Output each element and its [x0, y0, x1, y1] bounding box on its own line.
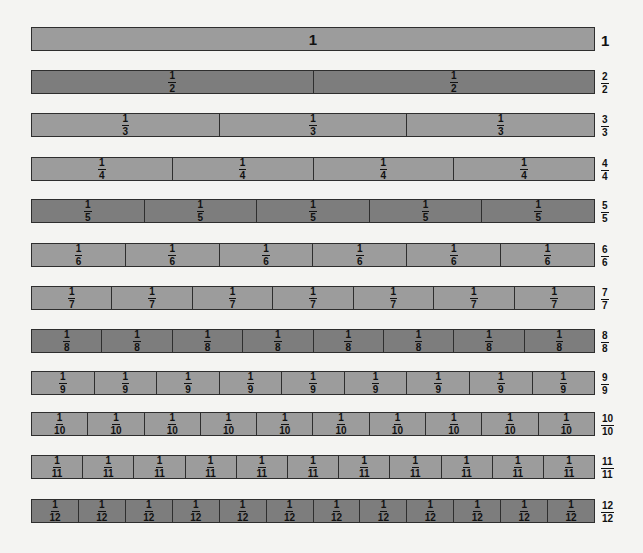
- numerator: 1: [497, 114, 505, 126]
- denominator: 6: [169, 256, 175, 267]
- denominator: 8: [602, 343, 608, 354]
- denominator: 8: [416, 342, 422, 353]
- fraction: 15: [422, 200, 430, 223]
- numerator: 1: [262, 244, 270, 256]
- numerator: 1: [344, 330, 352, 342]
- numerator: 1: [380, 500, 388, 512]
- denominator: 12: [519, 512, 530, 523]
- fraction: 110: [504, 413, 515, 436]
- numerator: 1: [63, 330, 71, 342]
- numerator: 1: [53, 456, 61, 468]
- fraction: 17: [148, 287, 156, 310]
- numerator: 1: [51, 500, 59, 512]
- denominator: 7: [230, 299, 236, 310]
- numerator: 1: [356, 244, 364, 256]
- total-label: 44: [601, 157, 609, 183]
- fraction: 99: [601, 373, 609, 396]
- denominator: 11: [359, 468, 370, 479]
- whole-number: 1: [309, 31, 317, 48]
- denominator: 10: [504, 425, 515, 436]
- fraction: 14: [98, 158, 106, 181]
- numerator: 1: [229, 287, 237, 299]
- numerator: 1: [565, 456, 573, 468]
- numerator: 1: [497, 372, 505, 384]
- fraction-cell: 16: [407, 244, 501, 266]
- numerator: 1: [534, 200, 542, 212]
- fraction-cell: 1: [32, 28, 594, 50]
- denominator: 8: [134, 342, 140, 353]
- fraction-cell: 17: [273, 287, 353, 309]
- numerator: 1: [281, 413, 289, 425]
- fraction: 15: [197, 200, 205, 223]
- fraction-cell: 18: [314, 330, 384, 352]
- numerator: 1: [427, 500, 435, 512]
- denominator: 6: [357, 256, 363, 267]
- fraction-cell: 15: [482, 200, 594, 222]
- numerator: 1: [514, 456, 522, 468]
- fraction: 112: [190, 500, 201, 523]
- fraction-cell: 12: [314, 71, 595, 93]
- fraction-cell: 18: [243, 330, 313, 352]
- numerator: 1: [473, 500, 481, 512]
- numerator: 1: [104, 456, 112, 468]
- fraction-cell: 18: [525, 330, 594, 352]
- fraction: 1111: [601, 457, 614, 480]
- denominator: 3: [498, 126, 504, 137]
- fraction-cell: 19: [282, 372, 345, 394]
- denominator: 2: [169, 83, 175, 94]
- numerator: 10: [601, 414, 614, 426]
- fraction: 19: [184, 372, 192, 395]
- fraction-cell: 16: [501, 244, 594, 266]
- strip-row-1: 11: [0, 27, 643, 53]
- fraction-cell: 14: [314, 158, 455, 180]
- numerator: 1: [192, 500, 200, 512]
- denominator: 11: [103, 468, 114, 479]
- denominator: 6: [602, 257, 608, 268]
- strip-row-3: 13131333: [0, 113, 643, 139]
- denominator: 7: [471, 299, 477, 310]
- fraction-cell: 16: [313, 244, 407, 266]
- numerator: 1: [394, 413, 402, 425]
- fraction: 19: [560, 372, 568, 395]
- numerator: 1: [506, 413, 514, 425]
- fraction: 15: [84, 200, 92, 223]
- numerator: 7: [601, 288, 609, 300]
- numerator: 1: [415, 330, 423, 342]
- denominator: 10: [110, 425, 121, 436]
- fraction-cell: 112: [79, 500, 126, 522]
- fraction-cell: 110: [539, 413, 594, 435]
- numerator: 1: [422, 200, 430, 212]
- fraction: 112: [49, 500, 60, 523]
- numerator: 1: [390, 287, 398, 299]
- fraction-bar: 17171717171717: [31, 286, 595, 310]
- fraction-cell: 111: [339, 456, 390, 478]
- denominator: 8: [345, 342, 351, 353]
- numerator: 4: [601, 159, 609, 171]
- fraction: 111: [257, 456, 268, 479]
- denominator: 7: [551, 299, 557, 310]
- strip-row-10: 1101101101101101101101101101101010: [0, 412, 643, 438]
- numerator: 1: [333, 500, 341, 512]
- numerator: 1: [98, 500, 106, 512]
- fraction: 14: [520, 158, 528, 181]
- fraction: 110: [167, 413, 178, 436]
- denominator: 10: [392, 425, 403, 436]
- numerator: 1: [550, 287, 558, 299]
- fraction-cell: 112: [32, 500, 79, 522]
- numerator: 1: [563, 413, 571, 425]
- fraction: 17: [390, 287, 398, 310]
- numerator: 1: [485, 330, 493, 342]
- numerator: 1: [145, 500, 153, 512]
- denominator: 9: [60, 384, 66, 395]
- denominator: 3: [602, 127, 608, 138]
- fraction: 19: [497, 372, 505, 395]
- fraction-cell: 112: [454, 500, 501, 522]
- fraction-cell: 110: [313, 413, 369, 435]
- denominator: 10: [336, 425, 347, 436]
- denominator: 9: [561, 384, 567, 395]
- fraction: 112: [237, 500, 248, 523]
- denominator: 11: [512, 468, 523, 479]
- fraction-cell: 18: [173, 330, 243, 352]
- strip-row-12: 1121121121121121121121121121121121121212: [0, 499, 643, 525]
- total-label: 1111: [601, 455, 614, 481]
